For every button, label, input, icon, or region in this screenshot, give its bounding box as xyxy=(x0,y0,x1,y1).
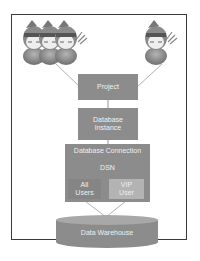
database-connection-node: Database Connection DSN All Users VIP Us… xyxy=(65,144,150,202)
project-label: Project xyxy=(97,83,119,91)
all-users-node: All Users xyxy=(68,179,101,199)
all-users-label-line1: All xyxy=(81,181,89,189)
project-node: Project xyxy=(78,74,138,100)
database-instance-label-line1: Database xyxy=(93,116,123,124)
database-instance-node: Database Instance xyxy=(78,108,138,140)
database-connection-label: Database Connection xyxy=(65,147,150,155)
vip-users-node: VIP User xyxy=(109,179,144,199)
vip-users-label-line1: VIP xyxy=(121,181,132,189)
vip-users-label-line2: User xyxy=(119,189,134,197)
data-warehouse-label: Data Warehouse xyxy=(55,229,159,236)
database-instance-label-line2: Instance xyxy=(95,124,121,132)
all-users-label-line2: Users xyxy=(75,189,93,197)
dsn-label: DSN xyxy=(65,164,150,172)
ninja-user-icon xyxy=(144,18,184,66)
ninja-user-group-icon xyxy=(22,18,94,66)
